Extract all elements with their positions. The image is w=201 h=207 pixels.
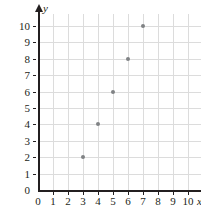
y-axis-tick-label: 6	[16, 87, 30, 98]
data-point	[111, 90, 115, 94]
x-axis-tick-label: 6	[121, 196, 135, 207]
y-axis-tick	[33, 42, 36, 43]
grid-line-vertical	[83, 14, 84, 190]
y-axis-tick	[33, 26, 36, 27]
grid-line-vertical	[188, 14, 189, 190]
y-axis-tick	[33, 157, 36, 158]
y-axis-tick-label: 3	[16, 136, 30, 147]
grid-line-horizontal	[38, 157, 201, 158]
scatter-plot: 012345678910012345678910 x y	[0, 0, 201, 207]
y-axis-tick-label: 4	[16, 119, 30, 130]
grid-line-horizontal	[38, 59, 201, 60]
y-axis-label: y	[43, 3, 48, 14]
x-axis-tick-label: 2	[61, 196, 75, 207]
x-axis-tick-label: 10	[181, 196, 195, 207]
data-point	[96, 122, 100, 126]
grid-line-horizontal	[38, 92, 201, 93]
grid-line-vertical	[113, 14, 114, 190]
grid-line-vertical	[143, 14, 144, 190]
grid-line-horizontal	[38, 141, 201, 142]
x-axis-line	[38, 190, 201, 192]
grid-line-horizontal	[38, 26, 201, 27]
grid-line-horizontal	[38, 124, 201, 125]
x-axis-tick-label: 8	[151, 196, 165, 207]
data-point	[141, 24, 145, 28]
y-axis-tick-label: 0	[16, 185, 30, 196]
grid-line-vertical	[53, 14, 54, 190]
x-axis-tick-label: 7	[136, 196, 150, 207]
y-axis-arrow-icon	[35, 4, 43, 12]
y-axis-tick-label: 1	[16, 169, 30, 180]
grid-line-vertical	[128, 14, 129, 190]
x-axis-tick-label: 4	[91, 196, 105, 207]
y-axis-tick	[33, 174, 36, 175]
y-axis-tick	[33, 75, 36, 76]
y-axis-tick-label: 10	[16, 21, 30, 32]
grid-line-horizontal	[38, 42, 201, 43]
y-axis-tick	[33, 59, 36, 60]
y-axis-tick	[33, 92, 36, 93]
x-axis-label: x	[197, 196, 201, 207]
grid-line-vertical	[158, 14, 159, 190]
grid-line-horizontal	[38, 108, 201, 109]
x-axis-tick-label: 9	[166, 196, 180, 207]
x-axis-tick-label: 1	[46, 196, 60, 207]
grid-line-horizontal	[38, 174, 201, 175]
data-point	[81, 155, 85, 159]
x-axis-tick-label: 0	[31, 196, 45, 207]
grid-line-vertical	[68, 14, 69, 190]
grid-line-vertical	[98, 14, 99, 190]
y-axis-tick-label: 5	[16, 103, 30, 114]
grid-line-vertical	[173, 14, 174, 190]
y-axis-tick-label: 8	[16, 54, 30, 65]
data-point	[126, 57, 130, 61]
y-axis-line	[38, 12, 40, 190]
grid-line-horizontal	[38, 75, 201, 76]
y-axis-tick-label: 2	[16, 152, 30, 163]
y-axis-tick	[33, 108, 36, 109]
x-axis-tick-label: 3	[76, 196, 90, 207]
y-axis-tick	[33, 124, 36, 125]
y-axis-tick	[33, 141, 36, 142]
y-axis-tick-label: 9	[16, 37, 30, 48]
x-axis-tick-label: 5	[106, 196, 120, 207]
y-axis-tick-label: 7	[16, 70, 30, 81]
